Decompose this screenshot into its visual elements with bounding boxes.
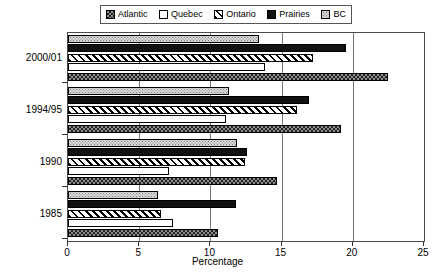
bar-prairies-1994-95 bbox=[68, 96, 309, 104]
legend-label-atlantic: Atlantic bbox=[118, 10, 148, 19]
legend-swatch-atlantic-icon bbox=[106, 10, 115, 19]
bar-prairies-1985 bbox=[68, 200, 236, 208]
x-tick bbox=[281, 241, 282, 246]
bar-prairies-1990 bbox=[68, 148, 247, 156]
y-tick bbox=[62, 186, 67, 187]
x-tick bbox=[138, 241, 139, 246]
legend-swatch-bc-icon bbox=[321, 10, 330, 19]
legend-item-bc: BC bbox=[321, 10, 346, 19]
plot-area bbox=[67, 32, 425, 242]
chart-legend: Atlantic Quebec Ontario Prairies BC bbox=[100, 5, 352, 24]
legend-label-ontario: Ontario bbox=[226, 10, 256, 19]
legend-swatch-quebec-icon bbox=[159, 10, 168, 19]
bar-quebec-1990 bbox=[68, 167, 169, 175]
legend-item-prairies: Prairies bbox=[267, 10, 310, 19]
y-tick bbox=[62, 82, 67, 83]
bars-layer bbox=[68, 33, 424, 241]
bar-bc-2000-01 bbox=[68, 35, 259, 43]
y-tick-label-1990: 1990 bbox=[4, 156, 62, 167]
bar-chart: Atlantic Quebec Ontario Prairies BC 0510… bbox=[0, 0, 435, 273]
legend-label-prairies: Prairies bbox=[279, 10, 310, 19]
bar-bc-1994-95 bbox=[68, 87, 229, 95]
y-tick bbox=[62, 238, 67, 239]
bar-quebec-1985 bbox=[68, 219, 173, 227]
legend-item-atlantic: Atlantic bbox=[106, 10, 148, 19]
legend-item-quebec: Quebec bbox=[159, 10, 203, 19]
bar-ontario-1985 bbox=[68, 210, 161, 218]
x-tick bbox=[423, 241, 424, 246]
legend-swatch-ontario-icon bbox=[214, 10, 223, 19]
bar-atlantic-1994-95 bbox=[68, 125, 341, 133]
bar-ontario-1990 bbox=[68, 158, 245, 166]
y-tick bbox=[62, 134, 67, 135]
legend-label-bc: BC bbox=[333, 10, 346, 19]
bar-prairies-2000-01 bbox=[68, 44, 346, 52]
bar-quebec-1994-95 bbox=[68, 115, 226, 123]
legend-label-quebec: Quebec bbox=[171, 10, 203, 19]
bar-ontario-2000-01 bbox=[68, 54, 313, 62]
bar-atlantic-1990 bbox=[68, 177, 277, 185]
x-tick bbox=[352, 241, 353, 246]
bar-atlantic-2000-01 bbox=[68, 73, 388, 81]
legend-item-ontario: Ontario bbox=[214, 10, 256, 19]
legend-swatch-prairies-icon bbox=[267, 10, 276, 19]
bar-atlantic-1985 bbox=[68, 229, 218, 237]
bar-quebec-2000-01 bbox=[68, 63, 265, 71]
y-tick-label-1985: 1985 bbox=[4, 208, 62, 219]
x-tick bbox=[209, 241, 210, 246]
y-tick-label-2000-01: 2000/01 bbox=[4, 52, 62, 63]
bar-bc-1990 bbox=[68, 139, 237, 147]
bar-bc-1985 bbox=[68, 191, 158, 199]
bar-ontario-1994-95 bbox=[68, 106, 297, 114]
x-axis-title: Percentage bbox=[0, 256, 435, 267]
y-tick-label-1994-95: 1994/95 bbox=[4, 104, 62, 115]
x-tick bbox=[67, 241, 68, 246]
